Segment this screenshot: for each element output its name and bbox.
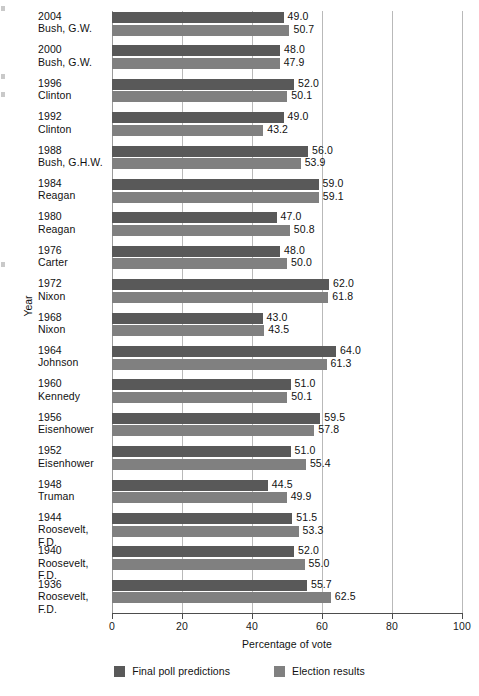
category-name: Roosevelt, F.D. [38,590,110,615]
bar-pred [112,45,280,56]
category-label: 1976Carter [38,244,110,269]
chart-legend: Final poll predictionsElection results [0,665,479,677]
bar-pred [112,313,263,324]
category-year: 1996 [38,77,110,89]
bar-value-label: 44.5 [272,479,293,490]
category-name: Kennedy [38,390,110,402]
tick-label-60: 60 [316,620,328,632]
category-label: 1936Roosevelt, F.D. [38,578,110,615]
bar-group: 51.050.1 [112,378,462,411]
category-name: Truman [38,490,110,502]
legend-swatch-pred [114,666,125,677]
bar-value-label: 59.0 [323,178,344,189]
legend-item[interactable]: Election results [274,665,365,677]
legend-item[interactable]: Final poll predictions [114,665,230,677]
bar-res [112,559,305,570]
bar-res [112,592,331,603]
category-year: 1976 [38,244,110,256]
tick-mark-60 [322,613,323,619]
bar-value-label: 48.0 [284,44,305,55]
bar-res [112,91,287,102]
bar-value-label: 59.5 [324,412,345,423]
category-label: 1948Truman [38,478,110,503]
bar-res [112,192,319,203]
bar-value-label: 53.3 [303,525,324,536]
bar-group: 49.050.7 [112,11,462,44]
bar-value-label: 50.0 [291,257,312,268]
tick-label-40: 40 [246,620,258,632]
bar-pred [112,212,277,223]
category-label: 1952Eisenhower [38,444,110,469]
bar-value-label: 56.0 [312,145,333,156]
bar-pred [112,179,319,190]
bar-group: 49.043.2 [112,111,462,144]
bar-res [112,526,299,537]
category-label: 1956Eisenhower [38,411,110,436]
bar-value-label: 64.0 [340,345,361,356]
bar-group: 56.053.9 [112,145,462,178]
bar-pred [112,12,284,23]
category-label: 1968Nixon [38,311,110,336]
category-year: 1952 [38,444,110,456]
bar-pred [112,112,284,123]
y-axis-title: Year [22,286,34,326]
tick-label-0: 0 [109,620,115,632]
category-name: Johnson [38,356,110,368]
bar-pred [112,580,307,591]
bar-group: 55.762.5 [112,579,462,612]
bar-value-label: 51.5 [296,512,317,523]
bar-group: 52.050.1 [112,78,462,111]
bar-pred [112,146,308,157]
bar-group: 64.061.3 [112,345,462,378]
bar-value-label: 49.0 [288,11,309,22]
category-year: 1992 [38,110,110,122]
bar-group: 52.055.0 [112,545,462,578]
bar-res [112,459,306,470]
tick-label-20: 20 [176,620,188,632]
category-label: 1940Roosevelt, F.D. [38,544,110,581]
plot-area: 49.050.748.047.952.050.149.043.256.053.9… [112,11,462,613]
category-label: 1980Reagan [38,210,110,235]
bar-value-label: 47.9 [284,57,305,68]
tick-mark-40 [252,613,253,619]
category-year: 1988 [38,144,110,156]
category-name: Nixon [38,323,110,335]
bar-pred [112,480,268,491]
category-name: Bush, G.W. [38,22,110,34]
category-year: 1968 [38,311,110,323]
category-year: 1972 [38,277,110,289]
bar-value-label: 51.0 [295,445,316,456]
category-year: 1944 [38,511,110,523]
bar-value-label: 53.9 [305,157,326,168]
category-name: Clinton [38,123,110,135]
category-name: Eisenhower [38,457,110,469]
legend-label: Election results [292,665,365,677]
bar-value-label: 52.0 [298,545,319,556]
category-label: 1972Nixon [38,277,110,302]
category-label: 2004Bush, G.W. [38,10,110,35]
bar-group: 62.061.8 [112,278,462,311]
bar-group: 59.557.8 [112,412,462,445]
bar-value-label: 50.1 [291,90,312,101]
category-label: 1984Reagan [38,177,110,202]
bar-value-label: 55.0 [309,558,330,569]
tick-mark-100 [462,613,463,619]
bar-value-label: 61.3 [331,358,352,369]
tick-label-100: 100 [453,620,471,632]
bar-pred [112,379,291,390]
bar-group: 47.050.8 [112,211,462,244]
bar-group: 48.050.0 [112,245,462,278]
category-label: 1988Bush, G.H.W. [38,144,110,169]
bar-res [112,158,301,169]
bar-value-label: 51.0 [295,378,316,389]
bar-value-label: 52.0 [298,78,319,89]
bar-pred [112,446,291,457]
edge-artifact [1,6,5,11]
bar-pred [112,79,294,90]
bar-pred [112,413,320,424]
bar-value-label: 43.0 [267,312,288,323]
bar-value-label: 47.0 [281,211,302,222]
edge-artifact [1,74,5,79]
category-year: 1960 [38,377,110,389]
bar-value-label: 50.8 [294,224,315,235]
